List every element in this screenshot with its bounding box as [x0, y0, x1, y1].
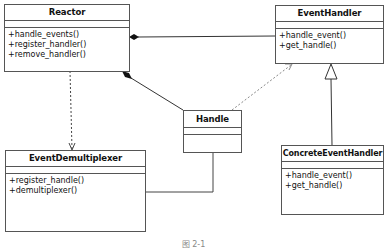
composition-diamond-icon [129, 34, 139, 40]
class-event-demultiplexer[interactable]: EventDemultiplexer +register_handle() +d… [5, 150, 146, 232]
class-reactor[interactable]: Reactor +handle_events() +register_handl… [4, 4, 130, 72]
operation: +remove_handler() [8, 50, 127, 60]
open-arrow-icon [285, 64, 292, 70]
operation: +register_handler() [8, 40, 127, 50]
class-event-handler[interactable]: EventHandler +handle_event() +get_handle… [275, 5, 384, 64]
class-concrete-event-handler[interactable]: ConcreteEventHandler +handle_event() +ge… [281, 145, 384, 215]
operations-section: +handle_events() +register_handler() +re… [5, 28, 129, 60]
attributes-section [276, 22, 383, 29]
operation: +register_handle() [9, 176, 143, 186]
operation: +get_handle() [279, 41, 381, 51]
operations-section: +handle_event() +get_handle() [276, 29, 383, 51]
generalization-line [331, 79, 332, 145]
composition-line-reactor-eventhandler [138, 36, 275, 37]
class-name: ConcreteEventHandler [282, 146, 383, 162]
operations-section: +register_handle() +demultiplexer() [6, 174, 145, 196]
dependency-line-handle-eventhandler [232, 65, 291, 110]
operation: +handle_event() [279, 31, 381, 41]
class-name: Reactor [5, 5, 129, 21]
figure-caption: 图 2-1 [0, 238, 387, 249]
operation: +handle_events() [8, 30, 127, 40]
composition-diamond-icon [122, 71, 132, 79]
attributes-section [282, 162, 383, 169]
operation: +handle_event() [285, 171, 381, 181]
attributes-section [6, 167, 145, 174]
class-name: EventHandler [276, 6, 383, 22]
attributes-section [184, 128, 241, 135]
class-handle[interactable]: Handle [183, 110, 242, 153]
inheritance-triangle-icon [325, 64, 337, 79]
operation: +demultiplexer() [9, 186, 143, 196]
class-name: EventDemultiplexer [6, 151, 145, 167]
operations-section: +handle_event() +get_handle() [282, 169, 383, 191]
class-name: Handle [184, 111, 241, 128]
operations-section [184, 135, 241, 137]
dependency-line-reactor-demux [70, 71, 72, 149]
association-line-handle-demux [145, 152, 213, 192]
composition-line-reactor-handle [131, 78, 183, 110]
attributes-section [5, 21, 129, 28]
operation: +get_handle() [285, 181, 381, 191]
